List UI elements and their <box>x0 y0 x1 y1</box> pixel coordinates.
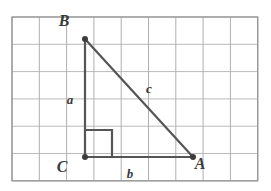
side-label-c: c <box>146 81 152 96</box>
vertex-label-A: A <box>194 155 206 172</box>
figure-canvas: B C A a b c <box>0 0 271 191</box>
right-triangle-figure: B C A a b c <box>0 0 271 191</box>
vertex-label-C: C <box>57 158 68 175</box>
vertex-dot-C <box>82 154 88 160</box>
vertex-label-B: B <box>58 12 70 29</box>
side-label-b: b <box>127 166 134 181</box>
side-label-a: a <box>67 92 74 107</box>
vertex-dot-B <box>82 36 88 42</box>
